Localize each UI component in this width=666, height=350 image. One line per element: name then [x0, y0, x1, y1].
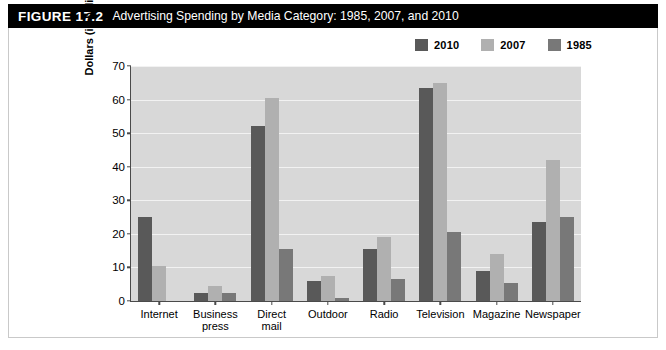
y-axis-tick-label: 10	[99, 261, 125, 273]
x-axis-tick	[496, 301, 497, 305]
figure-container: FIGURE 17.2 Advertising Spending by Medi…	[0, 0, 666, 350]
bar-group	[356, 66, 412, 301]
bar	[251, 126, 265, 301]
x-axis-tick	[327, 301, 328, 305]
bar-group	[469, 66, 525, 301]
legend-entry[interactable]: 2007	[481, 39, 525, 51]
bar	[377, 237, 391, 301]
legend-swatch	[481, 39, 494, 51]
bar-group	[412, 66, 468, 301]
bar-group	[187, 66, 243, 301]
legend-swatch	[548, 39, 561, 51]
y-axis-tick-label: 40	[99, 161, 125, 173]
bar	[152, 266, 166, 301]
x-axis-tick	[271, 301, 272, 305]
bar	[476, 271, 490, 301]
legend-label: 2007	[500, 39, 525, 51]
bar	[194, 293, 208, 301]
bar	[504, 283, 518, 301]
bar	[279, 249, 293, 301]
figure-title-label: Advertising Spending by Media Category: …	[112, 9, 458, 23]
y-axis-title: Dollars (in billions)	[83, 0, 95, 106]
bar-group	[244, 66, 300, 301]
bar-group	[300, 66, 356, 301]
x-axis-tick	[158, 301, 159, 305]
bar	[335, 298, 349, 301]
y-axis-tick-label: 0	[99, 295, 125, 307]
y-axis-tick-label: 50	[99, 127, 125, 139]
legend-label: 2010	[434, 39, 459, 51]
legend-entry[interactable]: 2010	[415, 39, 459, 51]
bar-group	[525, 66, 581, 301]
figure-title-bar: FIGURE 17.2 Advertising Spending by Medi…	[8, 4, 658, 28]
bar	[447, 232, 461, 301]
bar	[546, 160, 560, 301]
bar	[391, 279, 405, 301]
bar	[433, 83, 447, 301]
chart-legend: 201020071985	[415, 38, 592, 52]
bar	[419, 88, 433, 301]
x-axis-tick	[383, 301, 384, 305]
x-axis-tick	[215, 301, 216, 305]
y-axis-tick-label: 60	[99, 94, 125, 106]
legend-swatch	[415, 39, 428, 51]
bar	[532, 222, 546, 301]
bar	[363, 249, 377, 301]
y-axis-tick-label: 20	[99, 228, 125, 240]
bar	[490, 254, 504, 301]
bar	[208, 286, 222, 301]
bar	[560, 217, 574, 301]
bar	[138, 217, 152, 301]
legend-entry[interactable]: 1985	[548, 39, 592, 51]
chart-plot-area: Dollars (in billions) 010203040506070Int…	[130, 66, 581, 302]
x-axis-tick	[440, 301, 441, 305]
bar-group	[131, 66, 187, 301]
bar	[265, 98, 279, 301]
bar	[222, 293, 236, 301]
y-axis-tick-label: 30	[99, 194, 125, 206]
bar	[307, 281, 321, 301]
x-axis-tick	[552, 301, 553, 305]
y-axis-tick-label: 70	[99, 60, 125, 72]
x-axis-tick-label: Newspaper	[510, 308, 596, 320]
bar	[321, 276, 335, 301]
legend-label: 1985	[567, 39, 592, 51]
